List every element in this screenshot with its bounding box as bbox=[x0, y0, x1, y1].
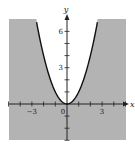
y-tick-label: 3 bbox=[59, 64, 63, 72]
x-tick-label: 3 bbox=[100, 108, 104, 116]
y-axis-label: y bbox=[63, 5, 69, 14]
x-tick-label: −3 bbox=[27, 108, 37, 116]
inequality-graph: x y −30336 bbox=[0, 0, 135, 145]
x-axis-label: x bbox=[130, 100, 135, 109]
x-tick-label: 0 bbox=[61, 108, 65, 116]
y-tick-label: 6 bbox=[59, 28, 64, 36]
y-axis-arrow bbox=[65, 14, 70, 20]
